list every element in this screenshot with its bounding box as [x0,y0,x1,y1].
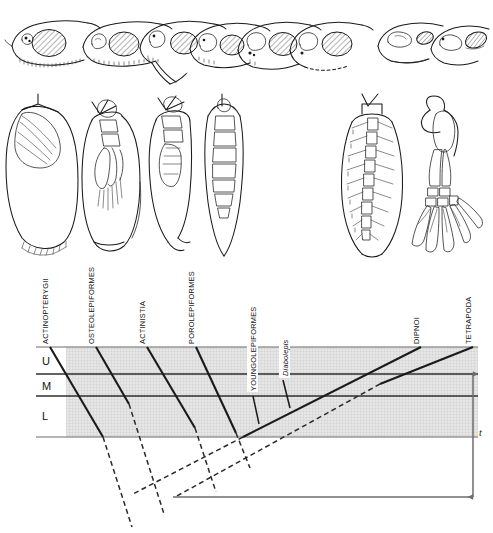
figure-plate: U M L [0,0,493,533]
svg-text:POROLEPIFORMES: POROLEPIFORMES [187,271,196,344]
fin-specimen-4 [205,94,243,256]
head-specimen-1 [5,21,100,67]
epoch-label-lower: L [42,410,48,422]
epoch-label-upper: U [42,355,50,367]
fin-specimen-6 [412,96,482,252]
head-specimen-2 [83,22,172,66]
taxon-label-actinistia: ACTINISTIA [138,301,147,344]
head-specimen-4 [190,23,270,67]
taxon-label-actinopterygii: ACTINOPTERYGII [41,278,50,344]
svg-text:ACTINISTIA: ACTINISTIA [138,301,147,344]
head-row-panel [0,0,493,92]
fin-specimen-3 [149,96,191,251]
head-specimen-8 [431,26,489,65]
range-chart-panel: U M L [0,260,493,533]
svg-text:DIPNOI: DIPNOI [412,317,421,344]
svg-text:YOUNGOLEPIFORMES: YOUNGOLEPIFORMES [249,307,258,392]
taxon-label-osteolepiformes: OSTEOLEPIFORMES [87,267,96,344]
fin-specimen-5 [341,94,402,257]
taxon-label-diabolepis: Diabolepis [279,328,290,378]
fin-specimen-2 [82,100,141,251]
svg-text:ACTINOPTERYGII: ACTINOPTERYGII [41,278,50,344]
head-specimen-3 [140,21,226,84]
svg-text:OSTEOLEPIFORMES: OSTEOLEPIFORMES [87,267,96,344]
fin-specimen-1 [6,94,78,255]
taxon-label-youngolepiformes: YOUNGOLEPIFORMES [247,280,258,392]
taxon-label-tetrapoda: TETRAPODA [464,297,473,344]
svg-text:TETRAPODA: TETRAPODA [464,297,473,344]
head-specimen-6 [290,22,373,70]
fin-row-panel [0,92,493,260]
taxon-label-porolepiformes: POROLEPIFORMES [187,271,196,344]
head-specimen-5 [238,22,321,69]
taxon-label-dipnoi: DIPNOI [412,317,421,344]
time-axis-label: t [479,427,482,438]
svg-text:Diabolepis: Diabolepis [281,339,290,376]
epoch-label-middle: M [42,380,51,392]
